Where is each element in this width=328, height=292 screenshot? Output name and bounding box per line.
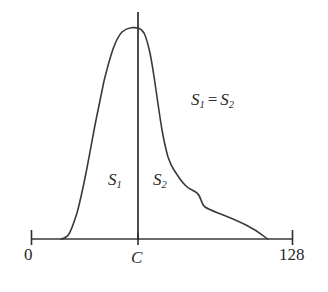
equals-sign: = bbox=[205, 90, 221, 109]
axis-label-threshold: C bbox=[131, 248, 142, 268]
area-label-s1: S1 bbox=[108, 170, 122, 190]
area-label-s1-subscript: 1 bbox=[117, 179, 122, 190]
axis-label-max: 128 bbox=[279, 245, 305, 265]
area-label-s2-subscript: 2 bbox=[162, 179, 167, 190]
equality-left-symbol: S bbox=[191, 90, 200, 109]
equality-left-subscript: 1 bbox=[200, 99, 205, 110]
equality-annotation: S1=S2 bbox=[191, 90, 234, 110]
area-label-s2-symbol: S bbox=[153, 170, 162, 189]
equality-right-symbol: S bbox=[220, 90, 229, 109]
area-label-s1-symbol: S bbox=[108, 170, 117, 189]
figure-container: S1 S2 S1=S2 0 C 128 bbox=[0, 0, 328, 292]
area-label-s2: S2 bbox=[153, 170, 167, 190]
axis-label-min: 0 bbox=[24, 245, 33, 265]
distribution-curve bbox=[61, 28, 268, 239]
equality-right-subscript: 2 bbox=[229, 99, 234, 110]
